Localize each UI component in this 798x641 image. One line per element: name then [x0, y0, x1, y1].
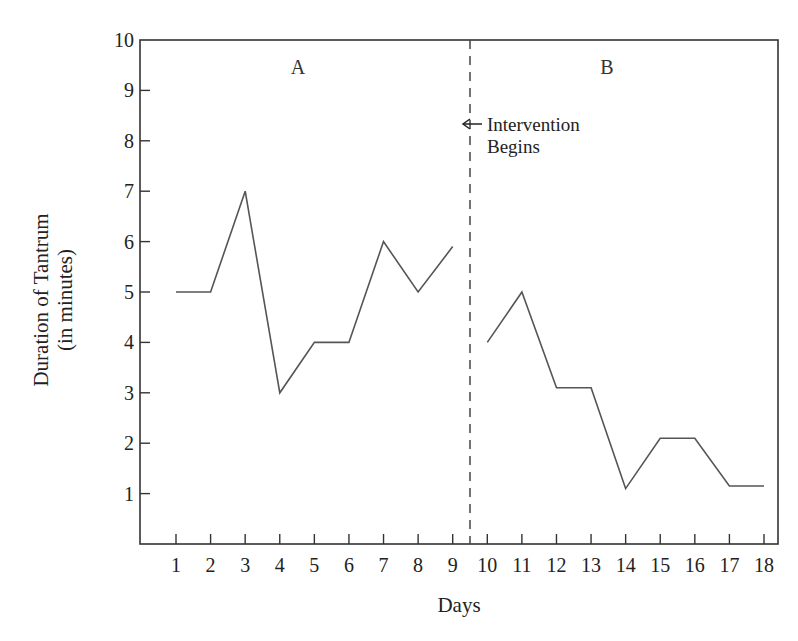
- x-tick-label: 10: [477, 554, 497, 576]
- phase-b-label: B: [600, 56, 613, 78]
- x-tick-label: 13: [581, 554, 601, 576]
- y-tick-label: 1: [124, 483, 134, 505]
- x-axis-ticks: 123456789101112131415161718: [171, 534, 774, 576]
- x-axis-title: Days: [437, 593, 480, 617]
- intervention-annotation: Intervention Begins: [463, 114, 580, 157]
- y-tick-label: 2: [124, 432, 134, 454]
- x-tick-label: 5: [309, 554, 319, 576]
- x-tick-label: 4: [275, 554, 285, 576]
- x-tick-label: 3: [240, 554, 250, 576]
- phase-a-series-line: [176, 191, 453, 393]
- x-tick-label: 17: [719, 554, 739, 576]
- x-tick-label: 7: [379, 554, 389, 576]
- phase-a-label: A: [291, 56, 306, 78]
- x-tick-label: 1: [171, 554, 181, 576]
- phase-b-series-line: [487, 292, 764, 489]
- arrow-left-icon: [463, 119, 482, 129]
- x-tick-label: 11: [512, 554, 531, 576]
- y-axis-title: Duration of Tantrum (in minutes): [29, 213, 77, 386]
- x-tick-label: 12: [546, 554, 566, 576]
- x-tick-label: 2: [206, 554, 216, 576]
- y-tick-label: 6: [124, 231, 134, 253]
- x-tick-label: 6: [344, 554, 354, 576]
- annotation-line-1: Intervention: [487, 114, 580, 135]
- x-tick-label: 9: [448, 554, 458, 576]
- x-tick-label: 14: [616, 554, 636, 576]
- x-tick-label: 18: [754, 554, 774, 576]
- y-tick-label: 9: [124, 79, 134, 101]
- y-axis-title-line-1: Duration of Tantrum: [29, 213, 53, 386]
- y-tick-label: 5: [124, 281, 134, 303]
- y-axis-ticks: 12345678910: [114, 29, 150, 505]
- line-chart: 12345678910 123456789101112131415161718 …: [0, 0, 798, 641]
- y-axis-title-line-2: (in minutes): [53, 249, 77, 351]
- y-tick-label: 3: [124, 382, 134, 404]
- y-tick-label: 7: [124, 180, 134, 202]
- y-tick-label: 10: [114, 29, 134, 51]
- plot-frame: [140, 40, 778, 544]
- x-tick-label: 8: [413, 554, 423, 576]
- y-tick-label: 4: [124, 331, 134, 353]
- x-tick-label: 16: [685, 554, 705, 576]
- annotation-line-2: Begins: [487, 136, 540, 157]
- x-tick-label: 15: [650, 554, 670, 576]
- y-tick-label: 8: [124, 130, 134, 152]
